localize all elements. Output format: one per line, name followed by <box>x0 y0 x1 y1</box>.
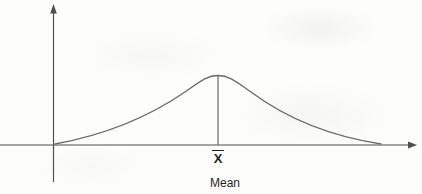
x-bar-symbol: X <box>212 150 225 166</box>
mean-caption: Mean <box>195 176 255 190</box>
normal-distribution-figure: X Mean <box>0 0 422 194</box>
mean-symbol-label: X <box>204 149 232 167</box>
y-axis-arrow-icon <box>50 4 57 14</box>
x-axis-arrow-icon <box>408 142 417 149</box>
